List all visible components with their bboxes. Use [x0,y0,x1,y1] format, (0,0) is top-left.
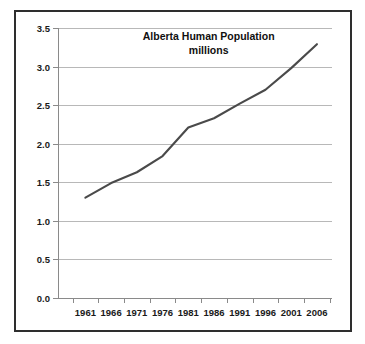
x-axis-tick-label: 1976 [152,307,173,318]
line-chart: 0.00.51.01.52.02.53.03.51961196619711976… [16,12,350,330]
chart-figure-frame: 0.00.51.01.52.02.53.03.51961196619711976… [14,10,352,332]
x-axis-tick-label: 1996 [255,307,276,318]
x-axis-tick-label: 1986 [203,307,224,318]
x-axis-tick-label: 1991 [229,307,251,318]
chart-title: Alberta Human Population [143,30,275,42]
y-axis-tick-label: 2.5 [37,100,51,111]
y-axis-tick-label: 3.0 [37,62,50,73]
x-axis-tick-label: 1981 [178,307,200,318]
y-axis-tick-label: 0.0 [37,293,50,304]
y-axis-tick-label: 0.5 [37,254,51,265]
x-axis-tick-label: 1961 [75,307,97,318]
y-axis-tick-label: 2.0 [37,139,50,150]
y-axis-tick-label: 1.0 [37,216,50,227]
x-axis-tick-label: 1971 [126,307,148,318]
y-axis-tick-label: 3.5 [37,23,51,34]
x-axis-tick-label: 2001 [281,307,303,318]
y-axis-tick-label: 1.5 [37,177,51,188]
chart-title: millions [189,44,229,56]
plot-area: 0.00.51.01.52.02.53.03.51961196619711976… [16,12,350,330]
x-axis-tick-label: 1966 [101,307,122,318]
x-axis-tick-label: 2006 [306,307,327,318]
